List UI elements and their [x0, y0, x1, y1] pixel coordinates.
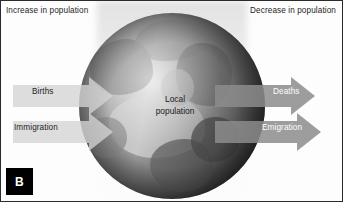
emigration-label: Emigration: [262, 123, 302, 132]
deaths-label: Deaths: [273, 87, 300, 96]
local-population-label: Local population: [133, 94, 217, 117]
immigration-arrow: [13, 113, 113, 151]
deaths-arrow: [215, 77, 315, 115]
immigration-label: Immigration: [14, 123, 58, 132]
population-flow-diagram: Increase in population Decrease in popul…: [0, 0, 343, 202]
panel-badge: B: [6, 168, 33, 195]
decrease-header: Decrease in population: [250, 6, 336, 15]
local-population-line2: population: [133, 106, 217, 118]
emigration-arrow: [215, 113, 321, 151]
local-population-line1: Local: [133, 94, 217, 106]
births-arrow: [13, 77, 113, 115]
births-label: Births: [32, 87, 54, 96]
increase-header: Increase in population: [6, 6, 88, 15]
